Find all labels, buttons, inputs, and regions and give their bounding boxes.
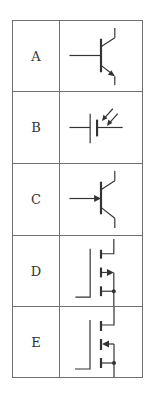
symbol-cell <box>60 21 142 91</box>
table-row-d: D <box>13 236 142 307</box>
symbol-cell <box>60 92 142 163</box>
table-row-a: A <box>13 21 142 92</box>
row-label: C <box>13 164 60 235</box>
table-row-c: C <box>13 164 142 236</box>
row-label: D <box>13 236 60 306</box>
table-row-b: B <box>13 92 142 164</box>
row-label: B <box>13 92 60 163</box>
photo-cell-battery-icon <box>60 92 142 163</box>
symbol-table: A B <box>12 20 143 378</box>
mosfet-arrow-in-icon <box>60 236 142 306</box>
row-label: A <box>13 21 60 91</box>
mosfet-arrow-out-icon <box>60 307 142 377</box>
table-row-e: E <box>13 307 142 377</box>
transistor-base-arrow-icon <box>60 164 142 235</box>
symbol-cell <box>60 307 142 377</box>
symbol-cell <box>60 236 142 306</box>
row-label: E <box>13 307 60 377</box>
npn-bipolar-transistor-icon <box>60 21 142 91</box>
symbol-cell <box>60 164 142 235</box>
